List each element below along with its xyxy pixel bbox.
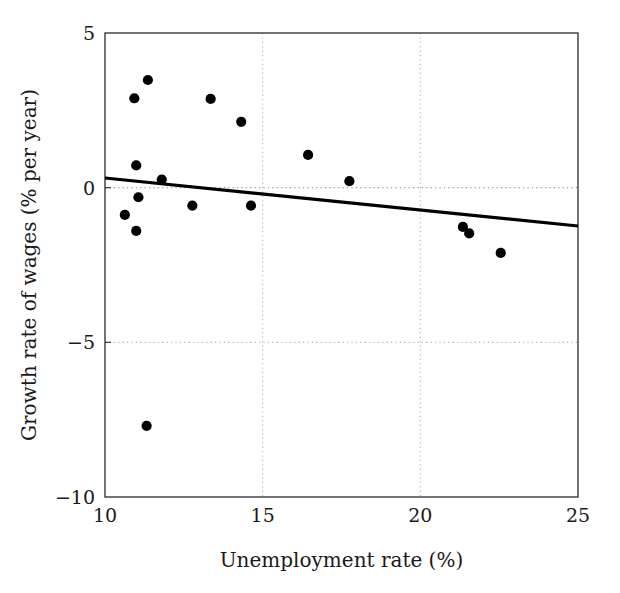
data-point	[187, 201, 197, 211]
scatter-plot-figure: 10152025 50−5−10 Unemployment rate (%) G…	[0, 0, 620, 593]
data-point	[206, 94, 216, 104]
x-tick-label: 20	[408, 504, 432, 526]
data-point	[157, 175, 167, 185]
data-point	[464, 228, 474, 238]
data-point	[236, 117, 246, 127]
data-point	[133, 192, 143, 202]
data-point	[142, 421, 152, 431]
data-point	[303, 150, 313, 160]
data-point	[143, 75, 153, 85]
chart-canvas: 10152025 50−5−10 Unemployment rate (%) G…	[0, 0, 620, 593]
y-axis-title: Growth rate of wages (% per year)	[17, 89, 41, 441]
data-point	[246, 201, 256, 211]
data-point	[131, 226, 141, 236]
data-point	[344, 176, 354, 186]
x-tick-label: 15	[251, 504, 275, 526]
data-point	[131, 160, 141, 170]
y-tick-label: −5	[67, 331, 95, 353]
data-point	[120, 210, 130, 220]
y-tick-label: 0	[83, 177, 95, 199]
y-tick-label: −10	[55, 486, 95, 508]
x-axis-title: Unemployment rate (%)	[220, 548, 463, 572]
x-tick-label: 25	[566, 504, 590, 526]
y-tick-label: 5	[83, 22, 95, 44]
data-point	[129, 93, 139, 103]
x-tick-label: 10	[93, 504, 117, 526]
data-point	[496, 248, 506, 258]
